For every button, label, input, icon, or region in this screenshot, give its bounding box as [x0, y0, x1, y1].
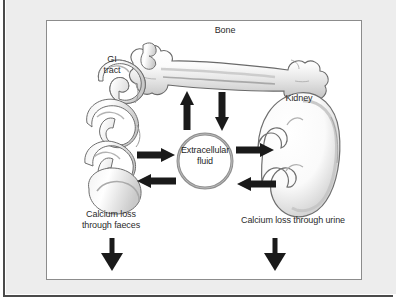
page-edge-rule-bottom [3, 295, 393, 297]
arrow-ecf-to-bone [180, 91, 194, 130]
label-calcium-loss-faeces: Calcium loss through faeces [63, 209, 159, 230]
label-gi-tract: GI tract [89, 54, 135, 75]
arrow-faeces-loss [101, 238, 123, 271]
label-bone: Bone [195, 25, 255, 36]
label-calcium-loss-urine: Calcium loss through urine [225, 215, 361, 226]
arrow-ecf-to-gi [137, 174, 176, 188]
arrow-bone-to-ecf [215, 92, 229, 131]
figure-frame: Bone GI tract Kidney Extracellular fluid… [46, 20, 362, 280]
page-edge-rule-left [3, 0, 5, 296]
kidney-illustration [258, 93, 340, 217]
figure-mat: Bone GI tract Kidney Extracellular fluid… [6, 0, 396, 294]
arrow-urine-loss [264, 238, 286, 271]
label-extracellular-fluid: Extracellular fluid [169, 145, 241, 166]
label-kidney: Kidney [272, 93, 326, 104]
